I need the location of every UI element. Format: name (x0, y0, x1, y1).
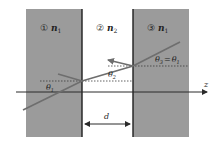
slab-diagram: ①n1 ②n2 ③n1 θ1 θ2 θ3=θ1 z d (0, 0, 222, 150)
gap-width-label: d (104, 112, 109, 121)
z-axis-label: z (203, 80, 209, 89)
region-2-label: ②n2 (96, 23, 118, 34)
theta3-equals-theta1-label: θ3=θ1 (155, 55, 180, 65)
reflected-ray (108, 60, 133, 66)
